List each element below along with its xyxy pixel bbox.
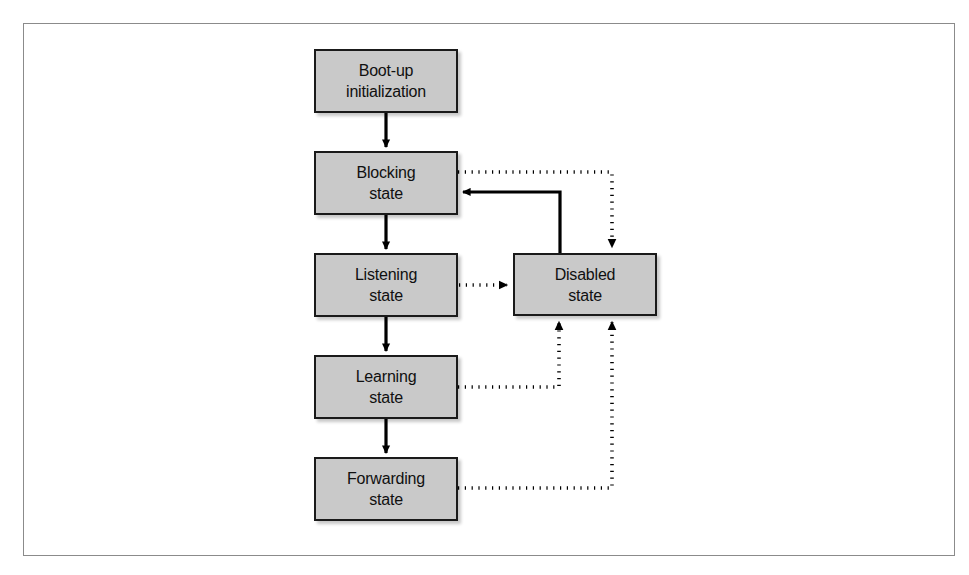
node-label-line-1: Forwarding	[347, 468, 425, 489]
node-blocking-state[interactable]: Blocking state	[314, 151, 458, 215]
node-label-line-2: state	[568, 285, 602, 306]
edge-forwarding-to-disabled	[458, 322, 612, 488]
node-label-line-1: Disabled	[555, 264, 616, 285]
node-label-line-1: Boot-up	[359, 60, 414, 81]
node-label-line-1: Listening	[355, 264, 417, 285]
node-disabled-state[interactable]: Disabled state	[513, 253, 657, 316]
edge-disabled-to-blocking	[463, 192, 560, 253]
node-forwarding-state[interactable]: Forwarding state	[314, 457, 458, 521]
edge-learning-to-disabled	[458, 322, 559, 387]
node-label-line-2: state	[369, 489, 403, 510]
node-label-line-1: Blocking	[357, 162, 416, 183]
node-listening-state[interactable]: Listening state	[314, 253, 458, 317]
node-label-line-2: state	[369, 387, 403, 408]
node-learning-state[interactable]: Learning state	[314, 355, 458, 419]
node-boot-up-initialization[interactable]: Boot-up initialization	[314, 49, 458, 113]
node-label-line-1: Learning	[356, 366, 417, 387]
node-label-line-2: initialization	[346, 81, 426, 102]
figure-root: Boot-up initialization Blocking state Li…	[0, 0, 969, 575]
node-label-line-2: state	[369, 183, 403, 204]
node-label-line-2: state	[369, 285, 403, 306]
edge-blocking-to-disabled	[458, 172, 612, 247]
diagram-edges	[0, 0, 969, 575]
